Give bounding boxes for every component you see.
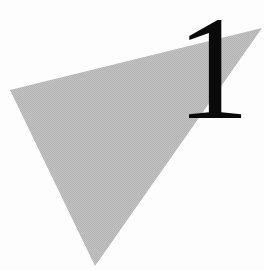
number-one-label: 1 bbox=[176, 0, 250, 142]
numbered-triangle-graphic: 1 bbox=[0, 0, 264, 270]
